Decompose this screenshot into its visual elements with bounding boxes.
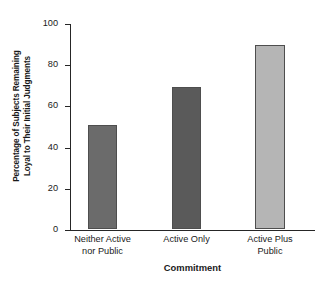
bar-active-only	[172, 87, 201, 229]
x-tick-label-active-only: Active Only	[163, 234, 209, 246]
plot-area: 100 80 60 40 20 0 Neither Active nor Pub…	[70, 24, 315, 230]
cat-0-line-1: Neither Active	[74, 234, 131, 246]
y-tick-0: 0	[65, 230, 70, 231]
x-tick-label-active-plus-public: Active Plus Public	[247, 234, 292, 257]
x-axis-line	[70, 230, 315, 231]
y-tick-label-40: 40	[48, 143, 58, 152]
y-tick-label-80: 80	[48, 61, 58, 70]
y-tick-80: 80	[65, 65, 70, 66]
x-tick-label-neither-active-nor-public: Neither Active nor Public	[74, 234, 131, 257]
y-axis-title-line-1: Percentage of Subjects Remaining	[11, 50, 22, 181]
y-tick-100: 100	[65, 24, 70, 25]
cat-2-line-1: Active Plus	[247, 234, 292, 246]
x-axis-title: Commitment	[70, 262, 315, 273]
bar-chart-figure: Percentage of Subjects Remaining Loyal t…	[0, 0, 325, 288]
y-tick-label-20: 20	[48, 184, 58, 193]
bar-active-plus-public	[255, 45, 285, 229]
y-tick-40: 40	[65, 148, 70, 149]
y-axis-line	[70, 24, 71, 231]
cat-1-line-1: Active Only	[163, 234, 209, 246]
cat-0-line-2: nor Public	[74, 246, 131, 258]
bar-neither-active-nor-public	[88, 125, 117, 229]
y-tick-20: 20	[65, 189, 70, 190]
y-tick-label-60: 60	[48, 102, 58, 111]
cat-2-line-2: Public	[247, 246, 292, 258]
y-tick-label-100: 100	[43, 19, 58, 28]
y-tick-60: 60	[65, 106, 70, 107]
y-axis-title-line-2: Loyal to Their Initial Judgments	[22, 50, 33, 181]
y-axis-title: Percentage of Subjects Remaining Loyal t…	[0, 0, 44, 232]
y-tick-label-0: 0	[53, 225, 58, 234]
